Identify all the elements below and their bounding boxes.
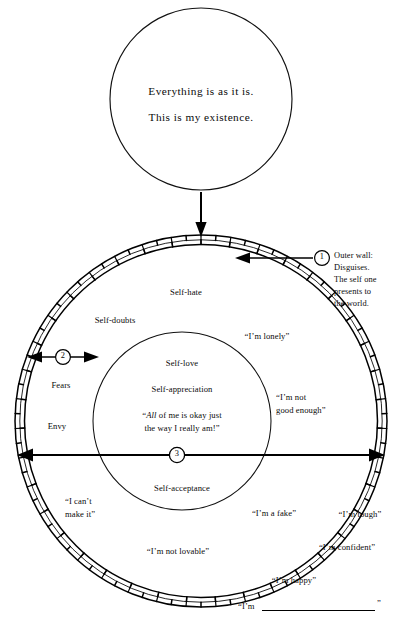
label-self-appreciation: Self-appreciation xyxy=(152,384,213,395)
label-i-cant-make-it-line-2: make it” xyxy=(65,509,95,520)
callout-1-text: Outer wall: Disguises. The self one pres… xyxy=(334,250,377,310)
label-self-doubts: Self-doubts xyxy=(95,315,136,326)
label-self-acceptance: Self-acceptance xyxy=(154,483,210,494)
label-self-love: Self-love xyxy=(166,358,198,369)
label-fears: Fears xyxy=(51,380,70,391)
label-im-lonely: “I’m lonely” xyxy=(245,331,290,342)
blank-prompt-suffix: ” xyxy=(377,598,381,609)
label-im-a-fake: “I’m a fake” xyxy=(252,508,296,519)
diagram-page: Everything is as it is. This is my exist… xyxy=(0,0,404,623)
quote-emphasis-all: All xyxy=(146,410,156,420)
self-quote-line-2: the way I really am!” xyxy=(144,423,219,434)
callout-marker-3-number: 3 xyxy=(175,449,179,460)
blank-prompt-write-line[interactable] xyxy=(262,610,375,611)
label-self-hate: Self-hate xyxy=(170,287,202,298)
label-envy: Envy xyxy=(48,421,67,432)
label-im-tough: “I’m tough” xyxy=(339,509,382,520)
callout-3-arrow xyxy=(17,449,385,462)
blank-prompt-prefix: “I’m xyxy=(238,601,255,612)
quote-rest: of me is okay just xyxy=(157,410,222,420)
label-im-confident: “I’m confident” xyxy=(319,542,375,553)
callout-1-leader xyxy=(235,253,313,264)
top-statement-line-2: This is my existence. xyxy=(149,110,254,124)
label-i-cant-make-it-line-1: “I can’t xyxy=(65,496,92,507)
top-statement-circle xyxy=(110,8,292,190)
label-im-not-lovable: “I’m not lovable” xyxy=(147,546,209,557)
label-im-happy: “I’m happy” xyxy=(272,575,316,586)
label-im-not-good-enough-line-2: good enough” xyxy=(276,405,326,416)
down-arrow xyxy=(195,192,206,237)
callout-marker-2-number: 2 xyxy=(61,351,65,362)
callout-marker-1-number: 1 xyxy=(320,252,324,263)
self-quote-line-1: “All of me is okay just xyxy=(142,410,221,421)
label-im-not-good-enough-line-1: “I’m not xyxy=(276,392,306,403)
top-statement-line-1: Everything is as it is. xyxy=(148,84,253,98)
